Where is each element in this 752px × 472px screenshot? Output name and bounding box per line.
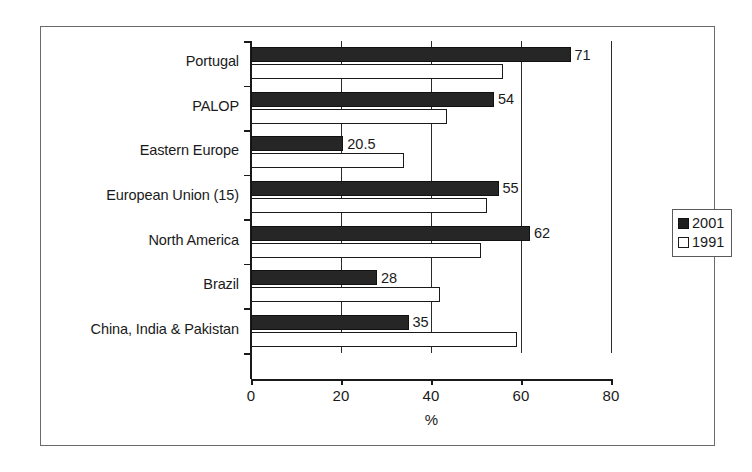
bar-1991[interactable] xyxy=(251,153,404,168)
bar-2001[interactable]: 62 xyxy=(251,226,530,241)
bar-2001[interactable]: 28 xyxy=(251,270,377,285)
legend-item-1991[interactable]: 1991 xyxy=(678,233,724,252)
y-tick xyxy=(244,41,251,43)
y-tick xyxy=(244,264,251,266)
category-label: China, India & Pakistan xyxy=(91,321,239,337)
x-tick-label: 80 xyxy=(581,387,641,404)
category-row: Eastern Europe20.5 xyxy=(251,130,611,175)
category-label: Eastern Europe xyxy=(140,142,239,158)
category-row: China, India & Pakistan35 xyxy=(251,308,611,353)
bar-2001[interactable]: 54 xyxy=(251,92,494,107)
x-tick-40 xyxy=(431,379,433,385)
bar-value-label: 54 xyxy=(498,91,514,107)
bar-1991[interactable] xyxy=(251,332,517,347)
bar-2001[interactable]: 55 xyxy=(251,181,499,196)
x-tick-label: 20 xyxy=(311,387,371,404)
y-tick xyxy=(244,86,251,88)
bar-value-label: 20.5 xyxy=(347,136,375,152)
bar-1991[interactable] xyxy=(251,109,447,124)
bar-1991[interactable] xyxy=(251,287,440,302)
gridline-80 xyxy=(611,41,612,353)
x-tick-80 xyxy=(611,379,613,385)
category-label: European Union (15) xyxy=(106,187,239,203)
y-tick xyxy=(244,175,251,177)
category-row: PALOP54 xyxy=(251,86,611,131)
category-label: Brazil xyxy=(203,276,239,292)
legend-label: 2001 xyxy=(692,216,724,231)
y-tick xyxy=(244,219,251,221)
plot-area: Portugal71PALOP54Eastern Europe20.5Europ… xyxy=(251,41,611,353)
category-row: Brazil28 xyxy=(251,264,611,309)
legend-item-2001[interactable]: 2001 xyxy=(678,214,724,233)
filled-square-icon xyxy=(678,218,689,229)
x-axis-title: % xyxy=(251,411,612,428)
figure-frame: 020406080 Portugal71PALOP54Eastern Europ… xyxy=(40,26,715,446)
y-tick xyxy=(244,308,251,310)
y-tick xyxy=(244,353,251,355)
y-tick xyxy=(244,130,251,132)
chart-legend: 2001 1991 xyxy=(672,209,732,257)
x-tick-label: 60 xyxy=(491,387,551,404)
category-label: North America xyxy=(148,232,239,248)
x-tick-20 xyxy=(341,379,343,385)
bar-value-label: 62 xyxy=(534,225,550,241)
bar-2001[interactable]: 20.5 xyxy=(251,136,343,151)
x-tick-label: 40 xyxy=(401,387,461,404)
bar-value-label: 71 xyxy=(575,47,591,63)
x-tick-0 xyxy=(251,379,253,385)
bar-value-label: 35 xyxy=(413,314,429,330)
bar-value-label: 55 xyxy=(503,180,519,196)
bar-2001[interactable]: 71 xyxy=(251,47,571,62)
legend-label: 1991 xyxy=(692,235,724,250)
bar-2001[interactable]: 35 xyxy=(251,315,409,330)
x-tick-60 xyxy=(521,379,523,385)
x-tick-label: 0 xyxy=(221,387,281,404)
bar-1991[interactable] xyxy=(251,243,481,258)
category-label: PALOP xyxy=(192,98,239,114)
category-row: Portugal71 xyxy=(251,41,611,86)
bar-value-label: 28 xyxy=(381,270,397,286)
category-row: European Union (15)55 xyxy=(251,175,611,220)
bar-1991[interactable] xyxy=(251,198,487,213)
bar-1991[interactable] xyxy=(251,64,503,79)
category-label: Portugal xyxy=(186,53,239,69)
category-row: North America62 xyxy=(251,219,611,264)
empty-square-icon xyxy=(678,237,689,248)
